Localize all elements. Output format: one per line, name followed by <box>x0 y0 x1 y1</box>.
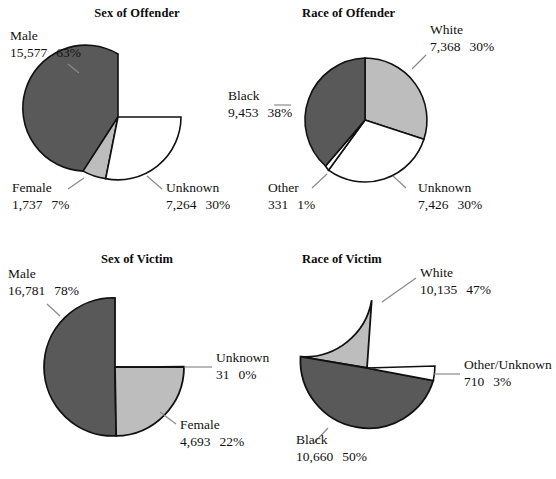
label-unknown-count: 7,264 <box>166 197 196 214</box>
label-unknown-name: Unknown <box>216 350 269 367</box>
label-other-percent: 1% <box>297 197 315 214</box>
label-black-name: Black <box>228 88 292 105</box>
label-female: Female 4,69322% <box>180 417 244 450</box>
leader-line-male <box>47 304 60 316</box>
label-female-name: Female <box>180 417 244 434</box>
pie-slice-unknown <box>106 117 181 180</box>
label-other-unknown: Other/Unknown 7103% <box>464 357 552 390</box>
label-unknown-count: 7,426 <box>418 197 448 214</box>
leader-line-female <box>68 178 84 189</box>
label-white-percent: 30% <box>469 39 494 56</box>
label-white: White 7,36830% <box>430 22 494 55</box>
label-male: Male 15,57763% <box>10 28 81 61</box>
label-white-count: 10,135 <box>420 282 457 299</box>
label-unknown-percent: 30% <box>457 197 482 214</box>
label-black-percent: 38% <box>267 105 292 122</box>
leader-line-white <box>412 55 426 69</box>
label-white: White 10,13547% <box>420 265 491 298</box>
label-male-count: 15,577 <box>10 45 47 62</box>
label-unknown-percent: 30% <box>205 197 230 214</box>
label-unknown-name: Unknown <box>418 180 482 197</box>
label-black-percent: 50% <box>342 449 367 466</box>
pie-slice-female <box>115 367 184 436</box>
chart-panel-sex-of-victim: Sex of Victim Male 16,78178% Unknown 310… <box>0 240 274 479</box>
label-white-name: White <box>430 22 494 39</box>
label-black-count: 9,453 <box>228 105 258 122</box>
label-male-name: Male <box>10 28 81 45</box>
pie-slice-unknown <box>115 366 184 367</box>
label-male-percent: 63% <box>56 45 81 62</box>
label-other: Other 3311% <box>268 180 315 213</box>
pie-slice-male <box>44 298 116 436</box>
leader-line-unknown <box>147 176 162 189</box>
label-other-unknown-name: Other/Unknown <box>464 357 552 374</box>
label-white-percent: 47% <box>466 282 491 299</box>
label-white-name: White <box>420 265 491 282</box>
leader-line-unknown <box>393 176 406 188</box>
label-unknown-count: 31 <box>216 367 230 384</box>
label-female: Female 1,7377% <box>12 180 69 213</box>
label-unknown-percent: 0% <box>239 367 257 384</box>
label-female-name: Female <box>12 180 69 197</box>
label-other-name: Other <box>268 180 315 197</box>
label-female-count: 1,737 <box>12 197 42 214</box>
label-unknown: Unknown 7,26430% <box>166 180 230 213</box>
label-white-count: 7,368 <box>430 39 460 56</box>
label-unknown: Unknown 310% <box>216 350 269 383</box>
label-other-count: 331 <box>268 197 288 214</box>
label-female-percent: 7% <box>51 197 69 214</box>
label-female-count: 4,693 <box>180 434 210 451</box>
label-black: Black 9,45338% <box>228 88 292 121</box>
label-other-unknown-percent: 3% <box>493 374 511 391</box>
label-black: Black 10,66050% <box>296 432 367 465</box>
chart-panel-race-of-offender: Race of Offender White 7,36830% Black 9,… <box>274 0 548 239</box>
label-black-name: Black <box>296 432 367 449</box>
label-female-percent: 22% <box>219 434 244 451</box>
label-male-name: Male <box>8 266 79 283</box>
label-male-count: 16,781 <box>8 283 45 300</box>
chart-panel-race-of-victim: Race of Victim White 10,13547% Other/Unk… <box>274 240 548 479</box>
label-unknown-name: Unknown <box>166 180 230 197</box>
label-male-percent: 78% <box>54 283 79 300</box>
leader-line-white <box>382 278 416 302</box>
label-unknown: Unknown 7,42630% <box>418 180 482 213</box>
label-male: Male 16,78178% <box>8 266 79 299</box>
label-black-count: 10,660 <box>296 449 333 466</box>
label-other-unknown-count: 710 <box>464 374 484 391</box>
